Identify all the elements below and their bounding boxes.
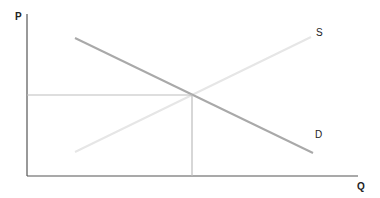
- supply-demand-diagram: [0, 0, 380, 198]
- x-axis-label: Q: [357, 182, 365, 192]
- supply-label: S: [316, 28, 323, 38]
- demand-label: D: [315, 130, 322, 140]
- y-axis-label: P: [15, 12, 22, 22]
